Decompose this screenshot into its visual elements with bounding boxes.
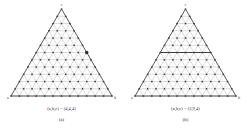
svg-text:b: b <box>114 96 116 100</box>
triangle-lattice-b: cab <box>124 0 247 106</box>
panel-a-plot: cab <box>0 0 123 106</box>
triangle-lattice-a: cab <box>0 0 123 106</box>
panel-a: cab (a,b,c) = (4,4,4) (a) <box>0 0 123 129</box>
figure-container: cab (a,b,c) = (4,4,4) (a) cab (a,b,c) = … <box>0 0 247 129</box>
svg-text:a: a <box>131 96 133 100</box>
svg-text:c: c <box>61 3 63 7</box>
panel-a-coord-caption: (a,b,c) = (4,4,4) <box>47 106 75 112</box>
svg-text:a: a <box>7 96 9 100</box>
panel-a-sub-caption: (a) <box>59 116 64 123</box>
svg-text:c: c <box>185 3 187 7</box>
svg-text:b: b <box>238 96 240 100</box>
panel-b-plot: cab <box>124 0 247 106</box>
panel-b-coord-caption: (a,b,c) = (3,9,4) <box>171 106 199 112</box>
panel-b-sub-caption: (b) <box>183 116 188 123</box>
panel-b: cab (a,b,c) = (3,9,4) (b) <box>124 0 247 129</box>
